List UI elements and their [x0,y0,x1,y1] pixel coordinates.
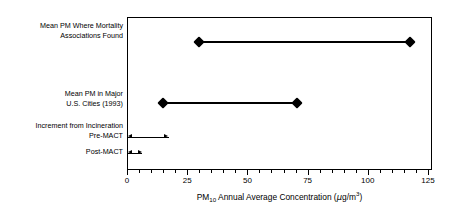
series-mortality-marker-start [193,36,204,47]
category-label-cities-line1: Mean PM in Major [0,89,123,99]
x-tick-minor [392,170,393,173]
x-tick-major [368,170,369,175]
x-tick-minor [175,170,176,173]
chart-page: Mean PM Where Mortality Associations Fou… [0,0,454,211]
x-tick-minor [139,170,140,173]
x-tick-minor [223,170,224,173]
series-cities-line [163,102,297,103]
series-mortality-line [199,41,410,42]
category-label-cities-line2: U.S. Cities (1993) [0,99,123,109]
arrow-left-icon [128,150,132,154]
x-tick-major [247,170,248,175]
x-tick-minor [235,170,236,173]
x-tick-minor [380,170,381,173]
x-axis-title-unit: g/m [342,192,356,202]
series-cities-marker-start [157,97,168,108]
x-axis-title-close: ) [359,192,362,202]
x-tick-minor [416,170,417,173]
x-tick-minor [151,170,152,173]
x-tick-minor [296,170,297,173]
x-tick-minor [199,170,200,173]
x-tick-minor [320,170,321,173]
x-tick-minor [356,170,357,173]
series-mortality-marker-end [404,36,415,47]
x-tick-major [428,170,429,175]
x-tick-minor [404,170,405,173]
x-tick-minor [344,170,345,173]
x-tick-label: 75 [288,176,328,185]
arrow-right-icon [164,134,168,138]
x-tick-minor [211,170,212,173]
x-tick-major [187,170,188,175]
x-tick-minor [163,170,164,173]
x-axis-title-pm: PM [197,192,210,202]
x-axis-title: PM10 Annual Average Concentration (µg/m3… [127,190,432,203]
category-label-increment: Increment from Incineration [0,121,123,131]
x-tick-minor [271,170,272,173]
x-axis-title-mid: Annual Average Concentration ( [216,192,336,202]
category-label-mortality: Mean PM Where Mortality Associations Fou… [0,21,123,40]
plot-area [127,17,432,170]
category-label-pre-mact: Pre-MACT [0,131,123,141]
x-tick-minor [284,170,285,173]
x-tick-major [127,170,128,175]
series-cities-marker-end [291,97,302,108]
arrow-left-icon [128,134,132,138]
category-label-post-mact: Post-MACT [0,147,123,157]
category-label-cities: Mean PM in Major U.S. Cities (1993) [0,89,123,108]
x-tick-label: 50 [227,176,267,185]
series-pre-mact-line [128,137,169,138]
x-tick-label: 25 [167,176,207,185]
category-label-mortality-line1: Mean PM Where Mortality [0,21,123,31]
x-tick-label: 125 [408,176,448,185]
x-tick-minor [332,170,333,173]
category-label-mortality-line2: Associations Found [0,31,123,41]
x-tick-label: 0 [107,176,147,185]
x-tick-major [308,170,309,175]
arrow-right-icon [138,150,142,154]
x-tick-minor [259,170,260,173]
x-tick-label: 100 [348,176,388,185]
